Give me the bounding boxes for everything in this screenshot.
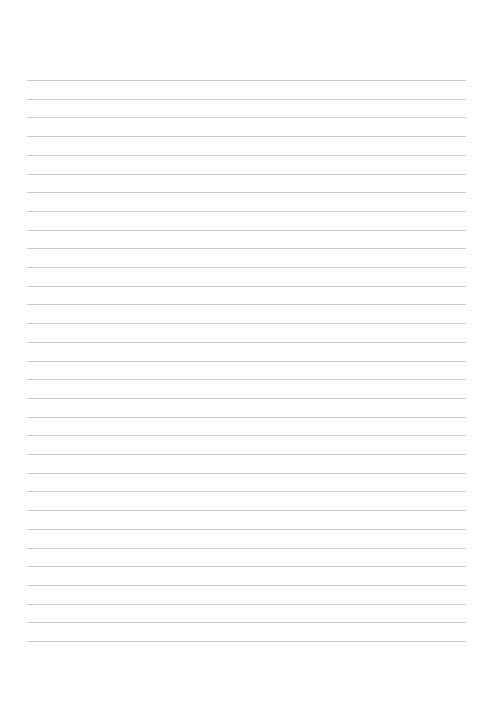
- ruled-line: [27, 230, 466, 231]
- ruled-line: [27, 136, 466, 137]
- ruled-line: [27, 548, 466, 549]
- ruled-line: [27, 99, 466, 100]
- ruled-line: [27, 417, 466, 418]
- ruled-line: [27, 398, 466, 399]
- ruled-line: [27, 323, 466, 324]
- ruled-line: [27, 491, 466, 492]
- ruled-line: [27, 622, 466, 623]
- ruled-line: [27, 604, 466, 605]
- ruled-line: [27, 510, 466, 511]
- ruled-line: [27, 80, 466, 81]
- ruled-line: [27, 529, 466, 530]
- ruled-line: [27, 473, 466, 474]
- ruled-line: [27, 585, 466, 586]
- ruled-line: [27, 248, 466, 249]
- ruled-line: [27, 192, 466, 193]
- ruled-line: [27, 155, 466, 156]
- ruled-line: [27, 361, 466, 362]
- ruled-line: [27, 342, 466, 343]
- ruled-line: [27, 454, 466, 455]
- ruled-line: [27, 267, 466, 268]
- ruled-line: [27, 286, 466, 287]
- ruled-line: [27, 211, 466, 212]
- ruled-line: [27, 174, 466, 175]
- ruled-line: [27, 379, 466, 380]
- ruled-line: [27, 641, 466, 642]
- ruled-line: [27, 566, 466, 567]
- ruled-line: [27, 304, 466, 305]
- ruled-line: [27, 117, 466, 118]
- ruled-line: [27, 435, 466, 436]
- lined-paper-page: [0, 0, 488, 708]
